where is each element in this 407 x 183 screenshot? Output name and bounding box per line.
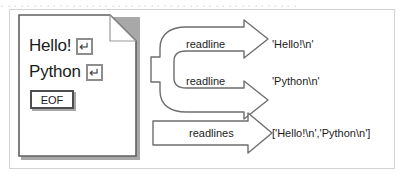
flow-arrows bbox=[0, 0, 407, 183]
readline-output-2: 'Python\n' bbox=[272, 75, 320, 87]
readline-label-1: readline bbox=[186, 38, 225, 50]
readlines-output: ['Hello!\n','Python\n'] bbox=[272, 127, 370, 139]
readline-fork-arrow bbox=[151, 20, 268, 119]
readlines-label: readlines bbox=[189, 127, 234, 139]
figure-container: ．．．．．．．．．．．．．．．．．．．．．．．．．．．．．．．．．．．．．．．．… bbox=[0, 0, 407, 183]
readline-output-1: 'Hello!\n' bbox=[272, 38, 314, 50]
readline-label-2: readline bbox=[186, 75, 225, 87]
